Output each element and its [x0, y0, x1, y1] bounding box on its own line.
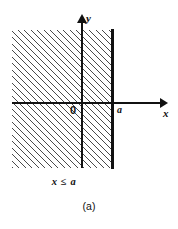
origin-label: 0: [70, 105, 76, 116]
inequality-figure: y x 0 a x ≤ a (a): [0, 0, 178, 229]
boundary-tick-label-a: a: [117, 105, 122, 115]
boundary-line-x-equals-a: [111, 29, 114, 169]
inequality-label: x ≤ a: [0, 176, 128, 187]
shaded-region-x-le-a: [12, 30, 113, 168]
figure-caption: (a): [0, 200, 178, 212]
y-axis-line: [81, 22, 83, 168]
y-axis-label: y: [86, 13, 91, 24]
x-axis-line: [12, 102, 164, 104]
x-axis-label: x: [163, 108, 169, 119]
